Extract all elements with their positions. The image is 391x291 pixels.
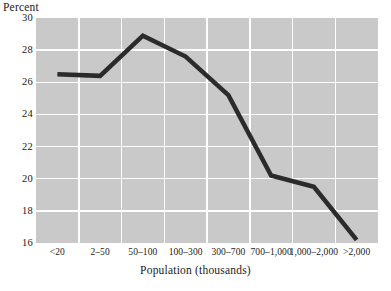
x-tick-label: 2–50 bbox=[90, 246, 109, 258]
data-series-line bbox=[36, 18, 378, 243]
y-tick-label: 18 bbox=[3, 206, 33, 217]
y-tick-label: 16 bbox=[3, 238, 33, 249]
y-tick-label: 22 bbox=[3, 142, 33, 153]
y-tick-label: 26 bbox=[3, 77, 33, 88]
series-polyline bbox=[57, 36, 356, 240]
x-tick-label: 100–300 bbox=[169, 246, 203, 258]
plot-area bbox=[36, 18, 378, 243]
x-axis-title: Population (thousands) bbox=[0, 263, 391, 277]
y-tick-label: 20 bbox=[3, 174, 33, 185]
y-axis-tick-labels: 1618202224262830 bbox=[0, 0, 33, 291]
x-tick-label: >2,000 bbox=[343, 246, 370, 258]
x-tick-label: 1,000–2,000 bbox=[290, 246, 339, 258]
y-tick-label: 30 bbox=[3, 13, 33, 24]
y-tick-label: 24 bbox=[3, 109, 33, 120]
x-axis-tick-labels: <202–5050–100100–300300–700700–1,0001,00… bbox=[36, 246, 378, 262]
x-tick-label: 700–1,000 bbox=[250, 246, 291, 258]
x-tick-label: <20 bbox=[50, 246, 65, 258]
y-tick-label: 28 bbox=[3, 45, 33, 56]
chart-figure: Percent 1618202224262830 <202–5050–10010… bbox=[0, 0, 391, 291]
x-tick-label: 300–700 bbox=[211, 246, 245, 258]
x-tick-label: 50–100 bbox=[128, 246, 157, 258]
